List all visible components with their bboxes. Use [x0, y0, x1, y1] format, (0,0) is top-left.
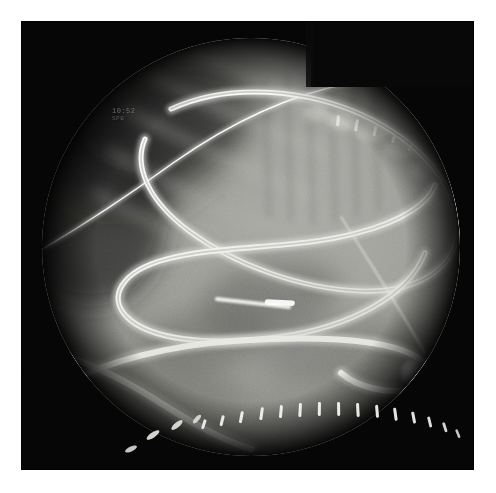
radiograph-frame: 10:52 SPB: [21, 21, 474, 470]
radiograph-image: [21, 21, 474, 470]
film-grain: [21, 21, 474, 470]
radiograph-viewer: 10:52 SPB: [0, 0, 496, 493]
